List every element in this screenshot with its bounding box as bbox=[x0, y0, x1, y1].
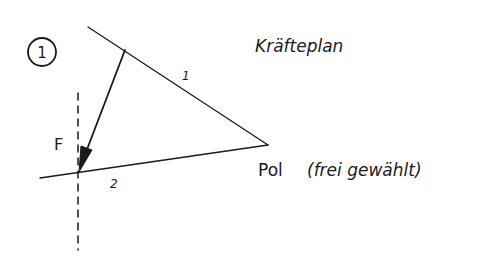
ray-2-label: 2 bbox=[110, 177, 118, 191]
step-number: 1 bbox=[37, 44, 47, 62]
ray-1-label: 1 bbox=[182, 69, 190, 83]
diagram-title: Kräfteplan bbox=[255, 36, 343, 56]
arrowhead-icon bbox=[79, 146, 92, 172]
force-label: F bbox=[54, 135, 63, 154]
pole-note: (frei gewählt) bbox=[307, 160, 422, 180]
force-diagram: 1 Kräfteplan 1 2 F Pol (frei gewählt) bbox=[0, 0, 479, 270]
step-number-badge: 1 bbox=[28, 38, 56, 66]
ray-1-line bbox=[88, 27, 268, 145]
force-vector-shaft bbox=[86, 50, 125, 152]
force-vector-arrow bbox=[79, 50, 125, 172]
ray-2-line bbox=[40, 145, 268, 178]
pole-label: Pol bbox=[258, 160, 283, 180]
